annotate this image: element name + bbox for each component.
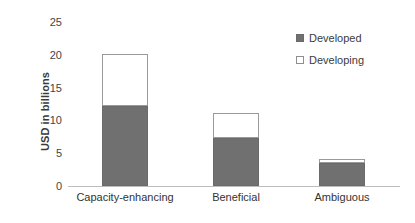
chart-legend: DevelopedDeveloping <box>296 29 411 73</box>
legend-item-developing[interactable]: Developing <box>296 51 411 68</box>
legend-label: Developing <box>309 54 364 66</box>
y-tick-label-25: 25 <box>38 16 62 28</box>
x-axis-label-capacity-enhancing: Capacity-enhancing <box>76 191 173 203</box>
hollow-square-icon <box>296 56 304 64</box>
bar-group-beneficial[interactable] <box>213 113 259 186</box>
y-axis-tick-labels: 2520151050 <box>38 0 62 223</box>
bar-segment-developed[interactable] <box>102 106 148 186</box>
legend-label: Developed <box>309 32 362 44</box>
legend-item-developed[interactable]: Developed <box>296 29 411 46</box>
y-tick-label-20: 20 <box>38 49 62 61</box>
y-tick-label-15: 15 <box>38 82 62 94</box>
bar-segment-developing[interactable] <box>102 54 148 106</box>
y-tick-label-0: 0 <box>38 180 62 192</box>
bar-segment-developing[interactable] <box>319 159 365 163</box>
bar-group-ambiguous[interactable] <box>319 159 365 186</box>
bar-segment-developing[interactable] <box>213 113 259 138</box>
y-tick-label-10: 10 <box>38 114 62 126</box>
stacked-bar-chart: USD in billions 2520151050 Capacity-enha… <box>0 0 415 223</box>
filled-square-icon <box>296 34 304 42</box>
x-axis-line <box>68 186 400 187</box>
y-tick-label-5: 5 <box>38 147 62 159</box>
x-axis-label-beneficial: Beneficial <box>212 191 260 203</box>
bar-segment-developed[interactable] <box>213 138 259 186</box>
x-axis-label-ambiguous: Ambiguous <box>314 191 369 203</box>
bar-segment-developed[interactable] <box>319 163 365 186</box>
bar-group-capacity-enhancing[interactable] <box>102 54 148 187</box>
